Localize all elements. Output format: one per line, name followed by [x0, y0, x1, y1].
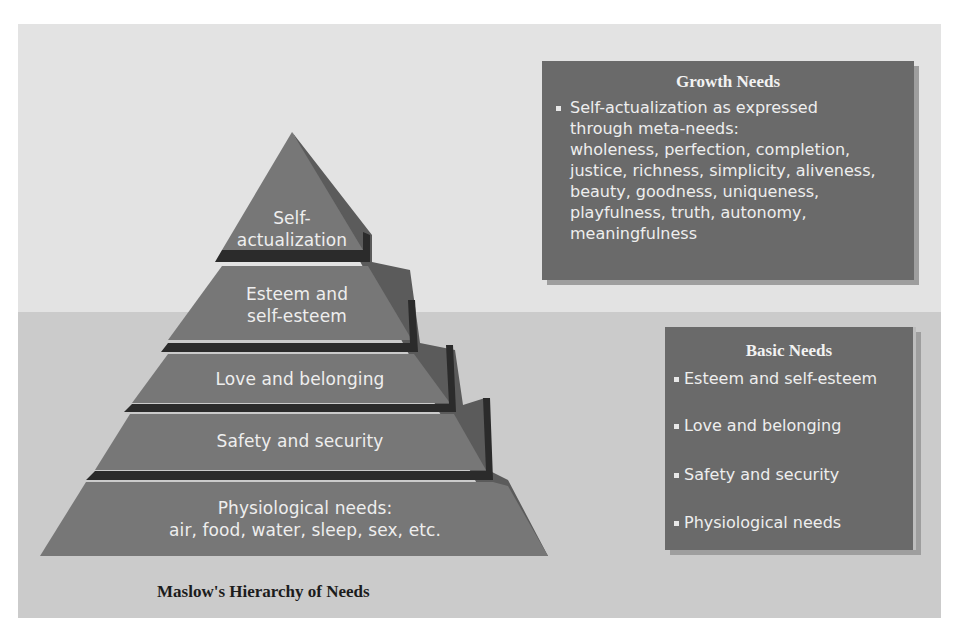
- growth-line: Self-actualization as expressed: [570, 97, 906, 118]
- tier-label-esteem: Esteem and self-esteem: [212, 283, 382, 327]
- tier-4-line-2: self-esteem: [212, 305, 382, 327]
- growth-line: through meta-needs:: [570, 118, 906, 139]
- diagram-caption: Maslow's Hierarchy of Needs: [157, 582, 370, 602]
- growth-needs-text: Self-actualization as expressed through …: [570, 97, 906, 244]
- tier-3-line-1: Love and belonging: [180, 368, 420, 390]
- bullet-icon: [674, 424, 679, 429]
- growth-line: wholeness, perfection, completion,: [570, 139, 906, 160]
- basic-needs-heading: Basic Needs: [665, 327, 913, 361]
- basic-needs-item-label: Physiological needs: [684, 513, 841, 532]
- basic-needs-item-label: Safety and security: [684, 465, 839, 484]
- growth-needs-box: Growth Needs Self-actualization as expre…: [542, 61, 914, 280]
- basic-needs-item: Love and belonging: [674, 416, 841, 436]
- bullet-icon: [556, 106, 561, 111]
- growth-line: beauty, goodness, uniqueness,: [570, 181, 906, 202]
- basic-needs-item-label: Love and belonging: [684, 416, 841, 435]
- growth-line: justice, richness, simplicity, aliveness…: [570, 160, 906, 181]
- tier-4-line-1: Esteem and: [212, 283, 382, 305]
- basic-needs-item-label: Esteem and self-esteem: [684, 369, 877, 388]
- basic-needs-item: Physiological needs: [674, 513, 841, 533]
- growth-needs-heading: Growth Needs: [542, 61, 914, 92]
- growth-line: meaningfulness: [570, 223, 906, 244]
- tier-label-love-belonging: Love and belonging: [180, 368, 420, 390]
- tier-1-line-2: air, food, water, sleep, sex, etc.: [140, 519, 470, 541]
- bullet-icon: [674, 377, 679, 382]
- tier-5-line-2: actualization: [232, 229, 352, 251]
- tier-label-physiological: Physiological needs: air, food, water, s…: [140, 497, 470, 541]
- tier-label-safety-security: Safety and security: [170, 430, 430, 452]
- bullet-icon: [674, 521, 679, 526]
- basic-needs-item: Esteem and self-esteem: [674, 369, 877, 389]
- tier-1-line-1: Physiological needs:: [140, 497, 470, 519]
- tier-5-line-1: Self-: [232, 207, 352, 229]
- basic-needs-box: Basic Needs Esteem and self-esteem Love …: [665, 327, 916, 550]
- bullet-icon: [674, 473, 679, 478]
- tier-label-self-actualization: Self- actualization: [232, 207, 352, 251]
- basic-needs-item: Safety and security: [674, 465, 839, 485]
- tier-2-line-1: Safety and security: [170, 430, 430, 452]
- growth-line: playfulness, truth, autonomy,: [570, 202, 906, 223]
